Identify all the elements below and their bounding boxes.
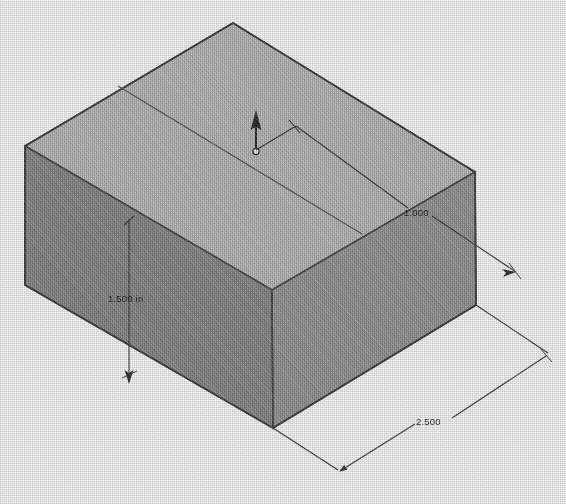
dim-width-tick-right bbox=[540, 348, 552, 362]
dim-width-line-b bbox=[452, 356, 546, 418]
dim-width-label[interactable]: 2.500 bbox=[416, 416, 441, 427]
dim-width-ext-left bbox=[273, 428, 338, 470]
cad-viewport: 1.500 in 1.000 2.500 bbox=[0, 0, 566, 504]
front-vertical-edge bbox=[272, 290, 273, 428]
dimension-depth-arrowhead-group bbox=[502, 263, 521, 279]
dim-width-ext-right bbox=[476, 305, 548, 353]
dim-depth-label[interactable]: 1.000 bbox=[404, 207, 429, 218]
cad-drawing-canvas: 1.500 in 1.000 2.500 bbox=[0, 0, 566, 504]
dim-height-label[interactable]: 1.500 in bbox=[108, 293, 143, 304]
dim-width-line-a bbox=[340, 424, 415, 471]
solid-body[interactable] bbox=[25, 23, 476, 428]
